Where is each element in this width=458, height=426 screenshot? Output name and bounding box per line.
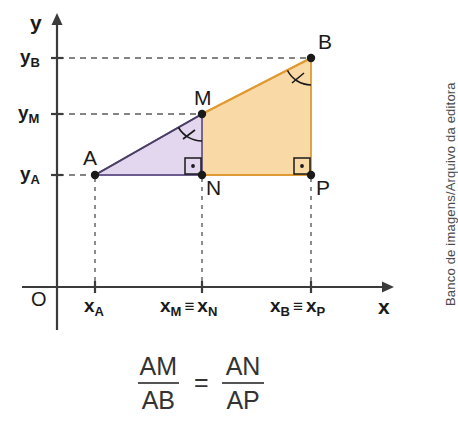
x-tick-base-A: x [84, 295, 95, 316]
point-marker-P[interactable] [307, 171, 315, 179]
point-label-M: M [194, 87, 212, 108]
point-marker-M[interactable] [198, 110, 206, 118]
y-tick-sub-A: A [31, 172, 40, 187]
x-tick-base-P: x [306, 295, 317, 316]
origin-label: O [31, 289, 47, 309]
fraction-denominator-AB: AB [138, 382, 179, 414]
y-tick-base-A: y [20, 163, 31, 184]
proportion-formula: AM AB = AN AP [0, 352, 400, 414]
equivalence-symbol-MN: ≡ [181, 297, 197, 316]
x-tick-sub-N: N [208, 304, 217, 319]
x-tick-base-B: x [270, 295, 281, 316]
x-tick-base-M: x [160, 295, 171, 316]
point-label-A: A [83, 147, 97, 168]
right-angle-dot-N [191, 164, 195, 168]
equals-sign: = [194, 368, 209, 399]
y-tick-base-B: y [20, 46, 31, 67]
point-label-P: P [316, 177, 330, 198]
x-tick-label-B-P: xB≡xP [270, 296, 325, 318]
x-tick-base-N: x [197, 295, 208, 316]
x-axis-arrow [382, 282, 394, 293]
x-tick-sub-B: B [281, 304, 290, 319]
point-marker-A[interactable] [91, 171, 99, 179]
y-tick-label-A: yA [20, 164, 40, 186]
right-angle-dot-P [300, 164, 304, 168]
y-axis-arrow [52, 13, 63, 25]
point-marker-N[interactable] [198, 171, 206, 179]
x-tick-sub-M: M [171, 304, 182, 319]
fraction-AM-AB: AM AB [136, 352, 182, 414]
fraction-numerator-AM: AM [136, 352, 182, 382]
y-tick-sub-B: B [31, 55, 40, 70]
fraction-AN-AP: AN AP [222, 352, 265, 414]
x-tick-sub-P: P [316, 304, 325, 319]
point-marker-B[interactable] [307, 54, 315, 62]
x-tick-label-M-N: xM≡xN [160, 296, 217, 318]
fraction-denominator-AP: AP [222, 382, 263, 414]
image-credit: Banco de imagens/Arquivo da editora [427, 18, 449, 308]
fraction-numerator-AN: AN [222, 352, 265, 382]
point-label-B: B [318, 31, 332, 52]
image-credit-text: Banco de imagens/Arquivo da editora [443, 82, 458, 306]
x-tick-sub-A: A [95, 304, 104, 319]
y-tick-sub-M: M [29, 111, 40, 126]
equivalence-symbol-BP: ≡ [290, 297, 306, 316]
point-label-N: N [206, 177, 221, 198]
x-tick-label-A: xA [84, 296, 104, 318]
y-tick-base-M: y [18, 102, 29, 123]
x-axis-label: x [378, 296, 390, 317]
y-tick-label-M: yM [18, 103, 39, 125]
y-axis-label: y [30, 12, 42, 33]
y-tick-label-B: yB [20, 47, 40, 69]
